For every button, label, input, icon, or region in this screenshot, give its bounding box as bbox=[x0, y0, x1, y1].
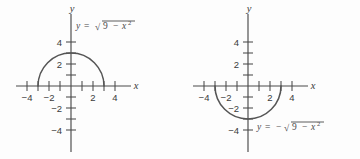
radicand-minus-left: − bbox=[113, 21, 118, 31]
x-axis-name-right: x bbox=[310, 80, 316, 91]
y-tick-label-neg4-left: −4 bbox=[51, 125, 62, 136]
radical-sign-right: √ bbox=[284, 123, 290, 133]
y-axis-name-left: y bbox=[69, 3, 75, 14]
radical-sign-left: √ bbox=[95, 22, 101, 32]
equation-label-right: y = − √ 9 − x 2 bbox=[256, 120, 324, 133]
coordinate-plane-left: −4 −2 2 4 4 2 −2 −4 y x y = √ 9 − x 2 bbox=[0, 0, 180, 159]
two-semicircle-graphs-figure: −4 −2 2 4 4 2 −2 −4 y x y = √ 9 − x 2 bbox=[0, 0, 360, 159]
y-axis-name-right: y bbox=[246, 3, 252, 14]
x-axis-name-left: x bbox=[133, 80, 139, 91]
radicand-exponent-left: 2 bbox=[128, 19, 131, 26]
equation-lhs-right: y bbox=[256, 122, 262, 132]
radicand-nine-right: 9 bbox=[292, 122, 297, 132]
equation-equals-right: = bbox=[265, 122, 270, 132]
y-tick-label-pos4-right: 4 bbox=[234, 37, 239, 48]
radicand-x-right: x bbox=[310, 122, 316, 132]
x-tick-label-pos4-left: 4 bbox=[112, 92, 117, 103]
radicand-minus-right: − bbox=[302, 122, 307, 132]
y-tick-label-neg2-right: −2 bbox=[228, 103, 239, 114]
y-tick-label-neg2-left: −2 bbox=[51, 103, 62, 114]
y-tick-label-pos2-left: 2 bbox=[57, 59, 62, 70]
equation-equals-left: = bbox=[84, 21, 89, 31]
y-tick-label-pos2-right: 2 bbox=[234, 59, 239, 70]
x-tick-label-neg4-left: −4 bbox=[22, 92, 33, 103]
coordinate-plane-right: −4 −2 2 4 4 2 −2 −4 y x y = − √ 9 − x 2 bbox=[180, 0, 360, 159]
y-tick-label-neg4-right: −4 bbox=[228, 125, 239, 136]
radicand-exponent-right: 2 bbox=[317, 120, 320, 127]
x-tick-label-neg2-right: −2 bbox=[221, 92, 232, 103]
equation-label-left: y = √ 9 − x 2 bbox=[75, 19, 135, 32]
graph-panel-right: −4 −2 2 4 4 2 −2 −4 y x y = − √ 9 − x 2 bbox=[180, 0, 360, 159]
x-tick-label-pos2-right: 2 bbox=[267, 92, 272, 103]
x-tick-label-neg4-right: −4 bbox=[199, 92, 210, 103]
equation-lhs-left: y bbox=[75, 21, 81, 31]
x-tick-label-pos4-right: 4 bbox=[289, 92, 294, 103]
graph-panel-left: −4 −2 2 4 4 2 −2 −4 y x y = √ 9 − x 2 bbox=[0, 0, 180, 159]
y-tick-label-pos4-left: 4 bbox=[57, 37, 62, 48]
equation-leading-minus-right: − bbox=[276, 122, 281, 132]
x-tick-label-neg2-left: −2 bbox=[44, 92, 55, 103]
radicand-x-left: x bbox=[121, 21, 127, 31]
radicand-nine-left: 9 bbox=[103, 21, 108, 31]
x-tick-label-pos2-left: 2 bbox=[90, 92, 95, 103]
